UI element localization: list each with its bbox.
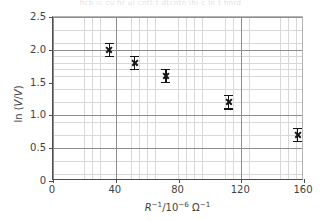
- x-tick: [53, 179, 54, 183]
- y-axis-label: ln (V/V): [13, 49, 25, 159]
- marker-x-icon: [131, 59, 139, 67]
- error-bar-cap: [130, 56, 139, 58]
- y-tick-label: 0: [14, 175, 46, 186]
- x-tick-label: 120: [231, 184, 250, 195]
- marker-x-icon: [294, 131, 302, 139]
- y-tick: [49, 181, 53, 182]
- error-bar-cap: [161, 82, 170, 84]
- marker-x-icon: [105, 46, 113, 54]
- y-tick: [49, 83, 53, 84]
- error-bar-cap: [293, 128, 302, 130]
- x-tick-label: 0: [49, 184, 55, 195]
- x-tick: [116, 179, 117, 183]
- x-tick: [241, 179, 242, 183]
- error-bar-cap: [130, 69, 139, 71]
- error-bar-cap: [224, 108, 233, 110]
- major-gridlines: [53, 17, 302, 179]
- plot-area: [52, 16, 303, 180]
- y-tick: [49, 50, 53, 51]
- error-bar-cap: [224, 95, 233, 97]
- error-bar-cap: [293, 141, 302, 143]
- y-tick: [49, 115, 53, 116]
- y-tick-label: 2.5: [14, 11, 46, 22]
- x-tick-label: 80: [171, 184, 184, 195]
- x-axis-label: R−1/10−6 Ω−1: [52, 199, 303, 214]
- error-bar-cap: [105, 43, 114, 45]
- clipped-text-band: hcb ic cu hr ui cntt t dtcntn ihi c ln t…: [0, 0, 321, 7]
- y-tick: [49, 148, 53, 149]
- y-tick: [49, 17, 53, 18]
- x-tick: [304, 179, 305, 183]
- error-bar-cap: [161, 69, 170, 71]
- x-tick-label: 160: [293, 184, 312, 195]
- x-tick-label: 40: [108, 184, 121, 195]
- marker-x-icon: [225, 98, 233, 106]
- x-tick: [179, 179, 180, 183]
- figure: hcb ic cu hr ui cntt t dtcntn ihi c ln t…: [0, 0, 321, 221]
- marker-x-icon: [162, 72, 170, 80]
- error-bar-cap: [105, 56, 114, 58]
